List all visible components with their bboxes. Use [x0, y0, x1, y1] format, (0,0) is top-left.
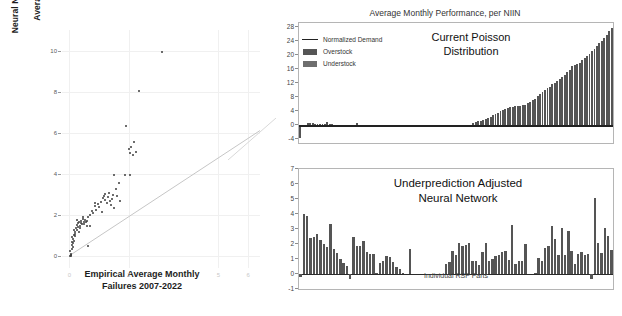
bar — [567, 231, 569, 275]
y-tick-mark — [295, 68, 298, 69]
bar — [352, 237, 354, 275]
scatter-x-tick-label: 6 — [246, 272, 249, 278]
scatter-data-point — [135, 151, 137, 153]
top-chart-annotation: Current Poisson Distribution — [396, 30, 546, 58]
bar — [607, 236, 609, 274]
scatter-data-point — [74, 235, 76, 237]
y-tick-label: 5 — [274, 195, 294, 202]
scatter-data-point — [100, 201, 102, 203]
scatter-data-point — [116, 195, 118, 197]
scatter-data-point — [94, 202, 96, 204]
bar — [409, 249, 411, 275]
y-tick-mark — [295, 124, 298, 125]
scatter-data-point — [82, 216, 84, 218]
y-tick-mark — [295, 54, 298, 55]
scatter-data-point — [133, 141, 135, 143]
bar — [362, 241, 364, 274]
bar — [594, 198, 596, 274]
bar — [451, 251, 453, 274]
bar — [333, 249, 335, 275]
y-tick-label: 1 — [274, 255, 294, 262]
scatter-data-point — [161, 51, 163, 53]
scatter-data-point — [132, 154, 134, 156]
y-tick-label: 2 — [274, 240, 294, 247]
scatter-data-point — [107, 196, 109, 198]
bar — [485, 243, 487, 275]
scatter-data-point — [79, 227, 81, 229]
y-tick-label: 24 — [274, 36, 294, 43]
y-tick-mark — [295, 96, 298, 97]
scatter-data-point — [115, 188, 117, 190]
scatter-y-tick-label: 10 — [50, 48, 57, 54]
y-tick-mark — [295, 288, 298, 289]
y-tick-mark — [295, 213, 298, 214]
bar — [610, 250, 612, 274]
bar — [313, 237, 315, 275]
scatter-data-point — [129, 174, 131, 176]
y-tick-label: 4 — [274, 210, 294, 217]
scatter-data-point — [86, 220, 88, 222]
scatter-data-point — [87, 245, 89, 247]
scatter-y-tick-label: 0 — [54, 253, 57, 259]
y-tick-label: 0 — [274, 121, 294, 128]
scatter-x-tick-label: 0 — [68, 272, 71, 278]
y-tick-mark — [295, 183, 298, 184]
bar — [577, 254, 579, 274]
y-tick-mark — [295, 82, 298, 83]
bar — [309, 238, 311, 274]
scatter-data-point — [124, 174, 126, 176]
bottom-chart-x-axis-label: Individual RSP Parts — [298, 272, 614, 279]
scatter-data-point — [111, 198, 113, 200]
y-tick-label: 3 — [274, 225, 294, 232]
normalized-demand-line — [299, 125, 613, 126]
bar — [465, 245, 467, 274]
top-chart-title: Average Monthly Performance, per NIIN — [268, 8, 622, 18]
scatter-data-point — [128, 148, 130, 150]
scatter-data-point — [95, 209, 97, 211]
bar — [303, 214, 305, 274]
bar — [306, 216, 308, 275]
legend-label-understock: Understock — [323, 60, 356, 67]
legend-label-overstock: Overstock — [323, 48, 352, 55]
scatter-data-point — [119, 200, 121, 202]
scatter-data-point — [113, 207, 115, 209]
scatter-data-point — [113, 174, 115, 176]
scatter-data-point — [87, 216, 89, 218]
y-tick-mark — [295, 168, 298, 169]
bar — [604, 228, 606, 274]
scatter-data-point — [70, 253, 72, 255]
scatter-data-point — [125, 125, 127, 127]
scatter-data-point — [109, 200, 111, 202]
bar — [524, 244, 526, 274]
y-tick-label: 8 — [274, 93, 294, 100]
bar — [544, 248, 546, 274]
bar — [323, 244, 325, 274]
bar — [372, 254, 374, 274]
bar — [511, 225, 513, 274]
y-tick-label: -1 — [274, 285, 294, 292]
y-tick-label: 4 — [274, 107, 294, 114]
y-tick-label: -4 — [274, 135, 294, 142]
scatter-y-tick-label: 8 — [54, 89, 57, 95]
bar — [468, 243, 470, 275]
y-tick-mark — [295, 228, 298, 229]
bar — [587, 254, 589, 274]
scatter-data-point — [71, 236, 73, 238]
bar — [329, 224, 331, 274]
legend-swatch-understock-icon — [302, 59, 318, 68]
scatter-data-point — [130, 146, 132, 148]
scatter-data-point — [89, 214, 91, 216]
bar — [319, 240, 321, 275]
y-tick-mark — [295, 198, 298, 199]
scatter-data-point — [103, 195, 105, 197]
y-tick-mark — [295, 26, 298, 27]
bar — [501, 252, 503, 274]
scatter-y-tick-label: 2 — [54, 212, 57, 218]
bar — [570, 251, 572, 274]
scatter-y-tick-label: 6 — [54, 130, 57, 136]
scatter-data-point — [72, 242, 74, 244]
y-tick-label: 16 — [274, 64, 294, 71]
scatter-data-point — [86, 225, 88, 227]
y-tick-label: 28 — [274, 22, 294, 29]
scatter-data-point — [70, 255, 72, 257]
